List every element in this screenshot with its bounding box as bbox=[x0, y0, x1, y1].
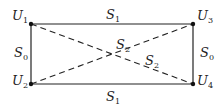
network-diagram: U1 U2 U3 U4 S1 S1 S0 S0 S2 S2 bbox=[0, 0, 224, 105]
node-label-u4: U4 bbox=[197, 73, 213, 90]
node-u4 bbox=[191, 82, 195, 86]
edge-label-diagonal-2: S2 bbox=[116, 37, 130, 54]
edge-label-left: S0 bbox=[14, 45, 28, 62]
edge-label-top: S1 bbox=[106, 7, 120, 24]
edge-label-diagonal-1: S2 bbox=[145, 53, 159, 70]
node-label-u3: U3 bbox=[197, 8, 213, 25]
node-u3 bbox=[191, 22, 195, 26]
edge-label-bottom: S1 bbox=[106, 89, 120, 105]
edge-label-right: S0 bbox=[200, 45, 214, 62]
node-label-u2: U2 bbox=[12, 73, 28, 90]
node-u1 bbox=[29, 22, 33, 26]
node-label-u1: U1 bbox=[12, 8, 28, 25]
node-u2 bbox=[29, 82, 33, 86]
